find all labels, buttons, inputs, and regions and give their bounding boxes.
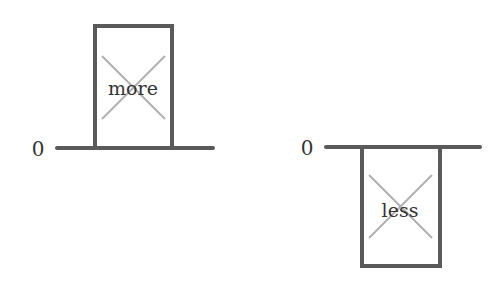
right-box-label: less (382, 199, 419, 221)
right-zero-label: 0 (301, 136, 314, 160)
diagram-canvas: 0 more 0 less (0, 0, 503, 290)
left-box-label: more (108, 77, 158, 99)
right-panel: 0 less (301, 136, 480, 266)
left-panel: 0 more (32, 26, 213, 161)
left-zero-label: 0 (32, 137, 45, 161)
